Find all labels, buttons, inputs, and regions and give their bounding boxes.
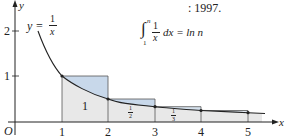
x-tick-3: 3	[152, 126, 158, 138]
y-tick-1: 1	[4, 70, 10, 82]
curve-label-lhs: y =	[27, 20, 43, 32]
header-fragment: : 1997.	[188, 2, 221, 14]
integral-rest: dx = ln n	[163, 27, 203, 38]
integral-num: 1	[153, 21, 158, 31]
rect-label-1: 1	[82, 100, 88, 112]
x-tick-1: 1	[59, 126, 65, 138]
y-axis-label: y	[19, 0, 24, 11]
rect-label-2-den: 2	[129, 113, 132, 119]
x-tick-4: 4	[198, 126, 204, 138]
y-axis-arrow-icon	[13, 0, 18, 7]
x-axis-label: x	[279, 117, 284, 128]
origin-label: O	[4, 125, 13, 137]
x-tick-2: 2	[105, 126, 111, 138]
rect-label-2-num: 1	[129, 105, 132, 111]
curve-label-den: x	[50, 27, 54, 37]
curve-label-num: 1	[50, 14, 55, 24]
x-axis-arrow-icon	[272, 120, 279, 125]
integral-upper: n	[147, 18, 151, 25]
integral-den: x	[153, 33, 157, 43]
rect-label-3-den: 3	[172, 116, 175, 122]
integral-sign: ∫	[141, 20, 146, 37]
y-tick-2: 2	[4, 25, 10, 37]
integral-lower: 1	[143, 40, 147, 47]
x-tick-5: 5	[245, 126, 251, 138]
rect-label-3-num: 1	[172, 108, 175, 114]
